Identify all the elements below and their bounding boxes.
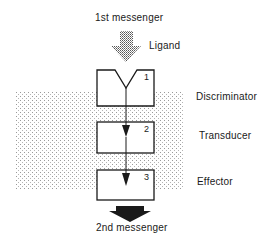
- ligand-arrow-icon: [111, 31, 141, 62]
- component-number-3: 3: [144, 172, 149, 182]
- effector-label: Effector: [197, 176, 233, 187]
- transducer-label: Transducer: [199, 130, 251, 141]
- ligand-label: Ligand: [149, 40, 180, 51]
- signal-transduction-diagram: [0, 0, 266, 243]
- output-arrow-icon: [109, 206, 151, 222]
- component-number-1: 1: [144, 72, 149, 82]
- input-label: 1st messenger: [95, 12, 163, 23]
- discriminator-label: Discriminator: [196, 91, 257, 102]
- output-label: 2nd messenger: [96, 222, 168, 233]
- component-number-2: 2: [144, 124, 149, 134]
